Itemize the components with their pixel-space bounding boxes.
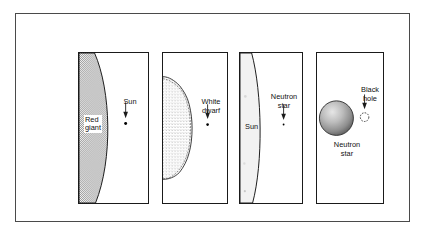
- label-neutron-star-panel4: Neutron star: [320, 141, 374, 158]
- neutron-star-dot: [283, 124, 285, 126]
- sun-dot-1: [124, 122, 127, 125]
- sun-speckle-3: [244, 190, 246, 192]
- label-white-dwarf: White dwarf: [196, 98, 226, 115]
- stellar-comparison-figure: Red giant Sun: [0, 0, 429, 236]
- label-red-giant: Red giant: [84, 115, 102, 133]
- label-neutron-star-panel3: Neutron star: [266, 93, 302, 110]
- panel-white-dwarf: White dwarf: [162, 52, 228, 204]
- label-sun-panel1: Sun: [117, 98, 143, 107]
- black-hole-arrow-head: [362, 103, 367, 109]
- figure-outer-frame: Red giant Sun: [15, 13, 410, 222]
- black-hole-graphic: [317, 53, 383, 203]
- white-dwarf-dot: [206, 123, 209, 126]
- sun-speckle-2: [243, 162, 245, 164]
- panel-red-giant: Red giant Sun: [78, 52, 149, 204]
- label-black-hole: Black hole: [355, 86, 384, 103]
- neutron-star-arrow-head: [281, 114, 286, 120]
- black-hole-dashed-circle: [360, 113, 369, 122]
- white-dwarf-graphic: [163, 53, 227, 203]
- panel-neutron-star: Sun Neutron star: [239, 52, 303, 204]
- panel-black-hole: Neutron star Black hole: [316, 52, 384, 204]
- sun-speckle-1: [244, 95, 247, 98]
- neutron-star-sphere: [319, 101, 353, 136]
- sun-stippled-body: [163, 77, 192, 180]
- label-sun-panel3: Sun: [245, 123, 258, 132]
- sun-arrow-head-1: [123, 112, 128, 118]
